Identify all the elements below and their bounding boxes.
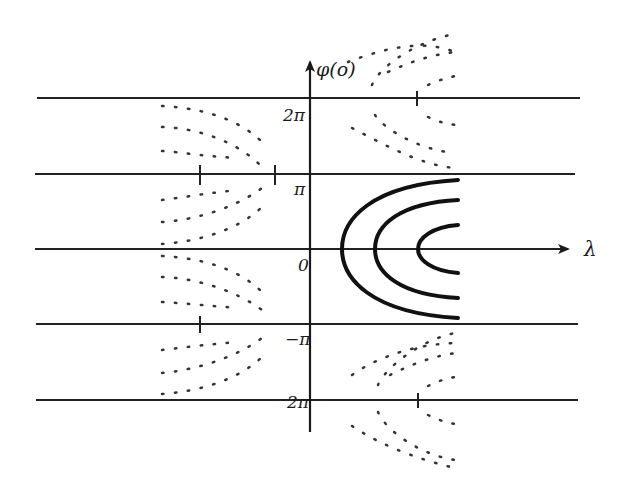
tick-label-pi: π — [293, 179, 306, 199]
tick-label-0: 0 — [298, 255, 309, 275]
dotted-curves-right — [348, 34, 455, 468]
phi-axis-label: φ(o) — [316, 58, 356, 80]
tick-label-neg-pi: −π — [285, 329, 311, 349]
phase-diagram: φ(o) λ 2π π 0 −π 2π — [0, 0, 619, 497]
tick-label-neg-2pi: 2π — [286, 392, 310, 412]
tick-label-2pi: 2π — [282, 105, 306, 125]
lambda-axis-label: λ — [583, 237, 597, 261]
horizontal-lines — [35, 98, 580, 400]
